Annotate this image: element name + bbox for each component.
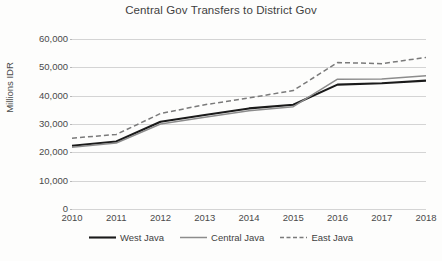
- x-axis-tick-label: 2012: [150, 212, 171, 223]
- legend-label: Central Java: [211, 232, 264, 243]
- legend-swatch-icon: [180, 233, 207, 242]
- y-axis-tick-label: 30,000: [8, 118, 68, 129]
- series-lines: [72, 39, 426, 209]
- legend-item-central-java[interactable]: Central Java: [180, 232, 264, 243]
- x-axis-tick-labels: 201020112012201320142015201620172018: [72, 212, 426, 228]
- series-line-west-java: [72, 81, 426, 146]
- legend-item-east-java[interactable]: East Java: [280, 232, 353, 243]
- x-axis-tick-label: 2010: [61, 212, 82, 223]
- y-axis-tick-label: 20,000: [8, 146, 68, 157]
- legend-label: West Java: [120, 232, 164, 243]
- legend-label: East Java: [311, 232, 353, 243]
- y-axis-tick-label: 60,000: [8, 33, 68, 44]
- plot-area: [72, 39, 426, 209]
- chart-legend: West JavaCentral JavaEast Java: [0, 232, 442, 243]
- x-axis-tick-label: 2016: [327, 212, 348, 223]
- x-axis-tick-label: 2013: [194, 212, 215, 223]
- chart-container: Central Gov Transfers to District Gov Mi…: [0, 0, 442, 261]
- gridline: [72, 209, 426, 210]
- x-axis-tick-label: 2018: [415, 212, 436, 223]
- legend-swatch-icon: [280, 233, 307, 242]
- y-axis-tick-labels: 60,00050,00040,00030,00020,00010,0000: [2, 0, 68, 261]
- x-axis-tick-label: 2017: [371, 212, 392, 223]
- x-axis-tick-label: 2014: [238, 212, 259, 223]
- y-axis-tick-label: 40,000: [8, 90, 68, 101]
- x-axis-tick-label: 2011: [106, 212, 126, 223]
- legend-item-west-java[interactable]: West Java: [89, 232, 164, 243]
- y-axis-tick-label: 0: [8, 203, 68, 214]
- y-axis-tick-label: 50,000: [8, 61, 68, 72]
- series-line-east-java: [72, 57, 426, 138]
- y-axis-tick-label: 10,000: [8, 175, 68, 186]
- x-axis-tick-label: 2015: [283, 212, 304, 223]
- legend-swatch-icon: [89, 233, 116, 242]
